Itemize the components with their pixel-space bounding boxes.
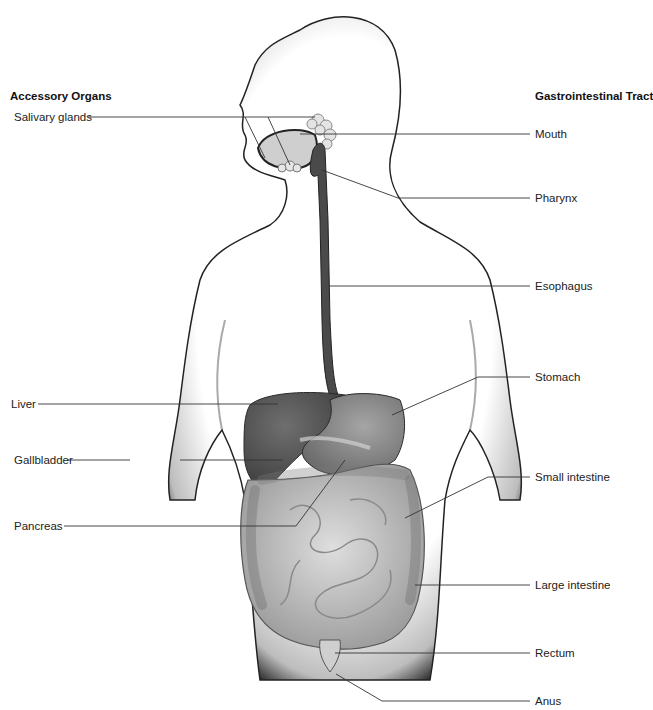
label-salivary-glands: Salivary glands bbox=[14, 110, 92, 124]
label-pancreas: Pancreas bbox=[14, 519, 63, 533]
label-liver: Liver bbox=[11, 397, 36, 411]
label-mouth: Mouth bbox=[535, 127, 567, 141]
label-large-intestine: Large intestine bbox=[535, 578, 610, 592]
label-rectum: Rectum bbox=[535, 646, 575, 660]
label-stomach: Stomach bbox=[535, 370, 580, 384]
label-small-intestine: Small intestine bbox=[535, 470, 610, 484]
gastrointestinal-tract-heading: Gastrointestinal Tract bbox=[535, 90, 653, 102]
label-pharynx: Pharynx bbox=[535, 191, 577, 205]
label-gallbladder: Gallbladder bbox=[14, 453, 73, 467]
accessory-organs-heading: Accessory Organs bbox=[10, 90, 112, 102]
label-anus: Anus bbox=[535, 694, 561, 708]
label-esophagus: Esophagus bbox=[535, 279, 593, 293]
